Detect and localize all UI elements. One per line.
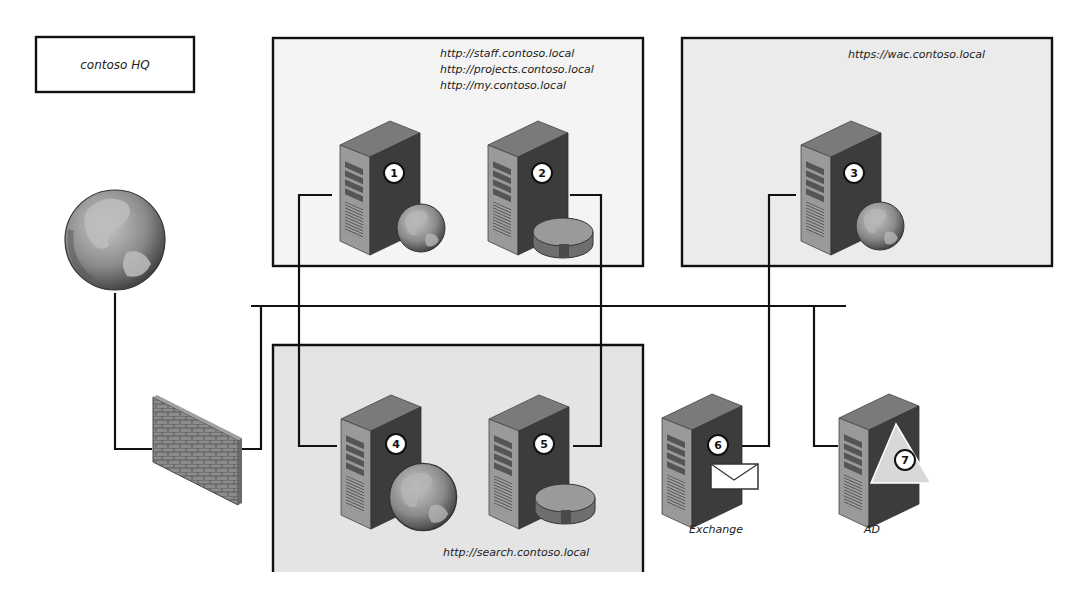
globe-icon: [856, 202, 904, 250]
server-7-ad[interactable]: 7 AD: [839, 394, 931, 536]
globe-icon: [389, 463, 456, 530]
server-number: 5: [540, 438, 548, 451]
database-icon: [535, 484, 595, 524]
zone-url: https://wac.contoso.local: [848, 48, 985, 61]
site-title-box: contoso HQ: [36, 37, 194, 92]
server-6-exchange[interactable]: 6 Exchange: [662, 394, 758, 536]
zone-search: http://search.contoso.local: [273, 345, 643, 572]
firewall-link: [240, 306, 261, 449]
internet-link: [115, 293, 152, 449]
zone-url: http://projects.contoso.local: [440, 63, 594, 76]
server-number: 7: [901, 454, 909, 467]
mail-envelope-icon: [711, 464, 758, 489]
network-diagram: contoso HQ http://staff.contoso.local ht…: [0, 0, 1085, 591]
server-number: 4: [392, 438, 400, 451]
database-icon: [533, 218, 593, 258]
internet-globe-icon: [65, 190, 165, 290]
zone-url: http://staff.contoso.local: [440, 47, 574, 60]
server-label: AD: [863, 523, 880, 536]
link-ad: [814, 306, 838, 446]
zone-url: http://my.contoso.local: [440, 79, 566, 92]
server-number: 1: [390, 167, 398, 180]
globe-icon: [397, 204, 445, 252]
server-number: 3: [850, 167, 858, 180]
site-title: contoso HQ: [80, 58, 149, 72]
zone-url: http://search.contoso.local: [443, 546, 589, 559]
server-number: 2: [538, 167, 546, 180]
server-label: Exchange: [689, 523, 743, 536]
server-tower-icon: [662, 394, 742, 528]
firewall-icon: [153, 395, 242, 505]
server-number: 6: [714, 439, 722, 452]
